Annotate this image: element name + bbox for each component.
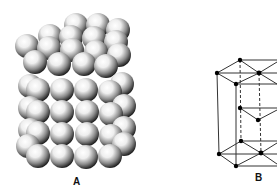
panel-b-label: B	[255, 172, 262, 183]
lattice-top-face	[217, 60, 277, 84]
panel-a-label: A	[73, 176, 80, 187]
sphere-stack-model	[15, 13, 136, 169]
lattice-bottom-face	[219, 141, 277, 166]
sphere-layer-top	[15, 13, 131, 78]
lattice-vertical-edges	[217, 60, 261, 166]
hcp-lattice-diagram	[215, 58, 277, 168]
figure-canvas	[0, 0, 277, 192]
